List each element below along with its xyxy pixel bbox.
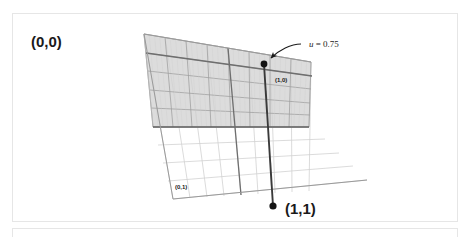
isoline-top-dot [261,61,268,68]
annotation-number: 0.75 [323,39,339,49]
corner-label-0-1: (0,1) [175,184,187,190]
figure-page: (0,0) (1,0) (0,1) (1,1) u = 0.75 [0,0,473,237]
figure-frame: (0,0) (1,0) (0,1) (1,1) u = 0.75 [12,13,458,222]
corner-label-0-0: (0,0) [31,33,62,50]
annotation-u-value: u = 0.75 [309,39,339,49]
isoline-bottom-dot [269,202,276,209]
corner-label-1-0: (1,0) [275,77,287,83]
patch-diagram-svg: (0,0) (1,0) (0,1) (1,1) u = 0.75 [13,14,459,223]
annotation-equals: = [314,39,324,49]
following-content-frame [12,228,458,237]
corner-label-1-1: (1,1) [285,200,316,217]
figure-canvas: (0,0) (1,0) (0,1) (1,1) u = 0.75 [13,14,459,223]
